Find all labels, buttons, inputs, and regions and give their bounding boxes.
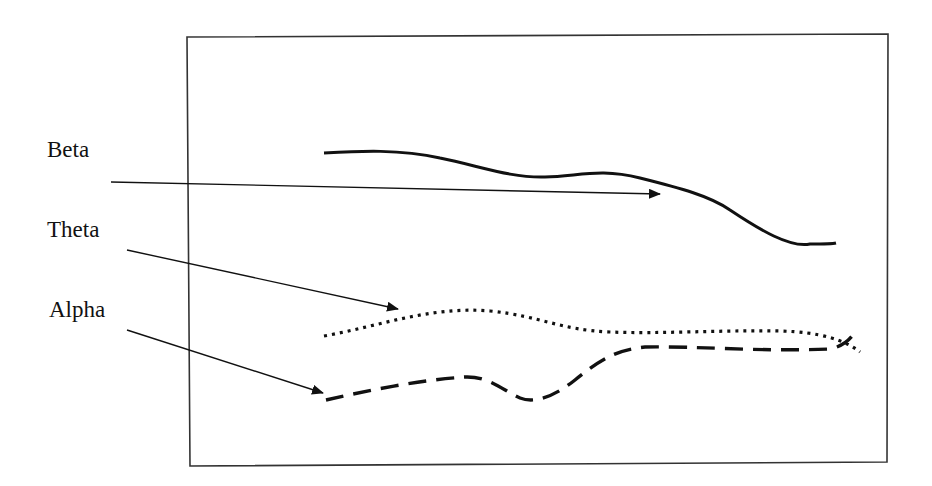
theta-arrow (127, 250, 398, 309)
label-theta: Theta (47, 218, 99, 241)
label-alpha: Alpha (49, 298, 105, 321)
beta-arrow (111, 182, 660, 194)
diagram-canvas (0, 0, 932, 486)
frame-box (187, 34, 888, 466)
theta-curve (324, 310, 860, 352)
label-beta: Beta (47, 138, 89, 161)
beta-curve (324, 151, 836, 244)
alpha-curve (326, 328, 856, 400)
alpha-arrow (127, 330, 323, 393)
